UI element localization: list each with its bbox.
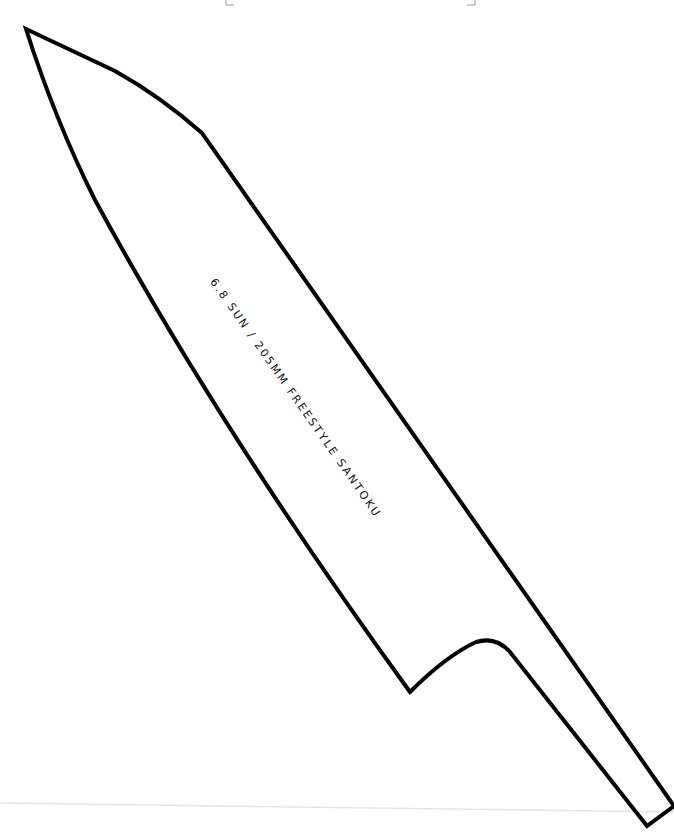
knife-template-canvas: 6.8 SUN / 205MM FREESTYLE SANTOKU (0, 0, 674, 838)
knife-outline (26, 29, 674, 826)
knife-template-drawing (0, 0, 674, 838)
paper-edge-line (0, 803, 674, 812)
crop-mark-right (467, 0, 475, 5)
crop-mark-left (226, 0, 234, 5)
